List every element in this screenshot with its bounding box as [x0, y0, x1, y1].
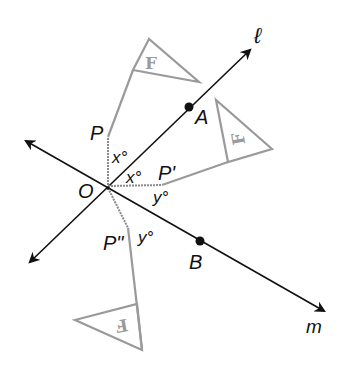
flag-letter-original: F: [145, 53, 157, 73]
flag-original: F: [108, 39, 199, 137]
label-P-prime: P': [158, 162, 176, 184]
point-B: [196, 237, 205, 246]
point-A: [185, 103, 194, 112]
flag-second-image: F: [75, 188, 142, 350]
label-O: O: [78, 180, 94, 202]
angle-label-x-lower: x°: [125, 168, 142, 187]
flag-letter-first-image: F: [227, 131, 249, 146]
label-B: B: [189, 251, 202, 273]
reflection-diagram: F F F ℓ m O A B P P' P" x° x° y° y°: [0, 0, 345, 380]
label-line-m: m: [306, 316, 322, 337]
label-P-double-prime: P": [103, 232, 124, 254]
label-line-l: ℓ: [253, 23, 262, 48]
label-P: P: [90, 122, 104, 144]
angle-label-y-upper: y°: [152, 188, 169, 207]
flag-letter-second-image: F: [114, 315, 129, 337]
point-O: [106, 186, 110, 190]
angle-label-y-lower: y°: [137, 228, 154, 247]
angle-label-x-upper: x°: [111, 148, 128, 167]
label-A: A: [194, 106, 208, 128]
